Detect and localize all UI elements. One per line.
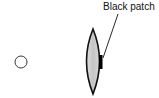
lens-shape <box>87 29 100 94</box>
black-patch-label: Black patch <box>103 1 155 12</box>
lens-diagram <box>0 0 159 98</box>
object-point-circle <box>15 56 27 68</box>
leader-line <box>103 14 118 58</box>
black-patch <box>99 55 103 69</box>
